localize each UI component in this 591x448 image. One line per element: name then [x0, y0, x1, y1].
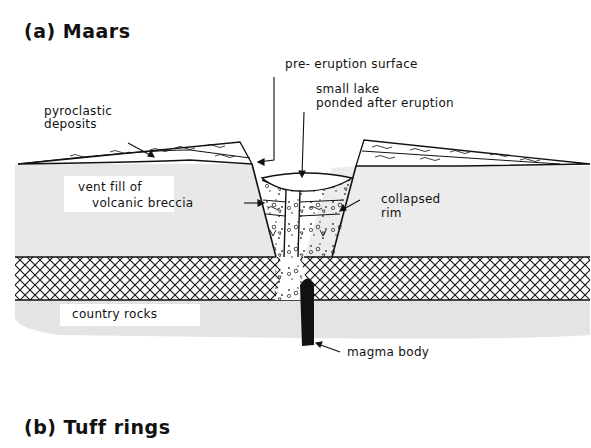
label-pre-eruption-surface: pre- eruption surface — [285, 57, 418, 71]
magma-body — [300, 279, 314, 347]
pyroclastic-deposit-left — [18, 142, 252, 164]
panel-b-title: (b) Tuff rings — [24, 416, 170, 438]
label-small-lake-2: ponded after eruption — [316, 96, 454, 110]
label-pyroclastic-2: deposits — [44, 117, 97, 131]
label-vent-fill-1: vent fill of — [78, 180, 142, 194]
label-magma-body: magma body — [347, 345, 429, 359]
label-collapsed-2: rim — [381, 206, 402, 220]
label-country-rocks: country rocks — [72, 307, 157, 321]
label-vent-fill-2: volcanic breccia — [92, 196, 193, 210]
label-collapsed-1: collapsed — [381, 192, 441, 206]
label-small-lake-1: small lake — [316, 82, 379, 96]
label-pyroclastic-1: pyroclastic — [44, 104, 112, 118]
